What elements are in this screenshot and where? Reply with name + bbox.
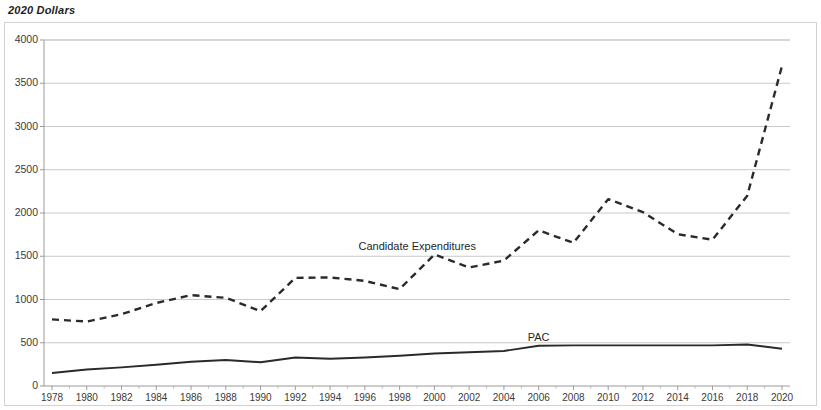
series-line-1: [52, 66, 782, 322]
y-axis-tick-label: 2500: [2, 163, 38, 175]
x-axis-ticks: [52, 386, 782, 390]
y-axis-tick-label: 1500: [2, 249, 38, 261]
y-axis-tick-label: 1000: [2, 293, 38, 305]
gridlines: [44, 40, 790, 343]
series-label-1: Candidate Expenditures: [359, 240, 476, 252]
y-axis-tick-label: 4000: [2, 33, 38, 45]
y-axis-tick-label: 3000: [2, 120, 38, 132]
y-axis-tick-label: 3500: [2, 76, 38, 88]
y-axis-tick-label: 2000: [2, 206, 38, 218]
series-line-2: [52, 344, 782, 373]
series-label-2: PAC: [528, 331, 550, 343]
y-axis-tick-label: 0: [2, 379, 38, 391]
x-axis-tick-label: 2020: [762, 392, 802, 403]
data-series: [52, 66, 782, 373]
y-axis-tick-label: 500: [2, 336, 38, 348]
chart-plot-area: [0, 0, 821, 410]
y-axis-ticks: [40, 40, 44, 386]
chart-container: 2020 Dollars 050010001500200025003000350…: [0, 0, 821, 410]
